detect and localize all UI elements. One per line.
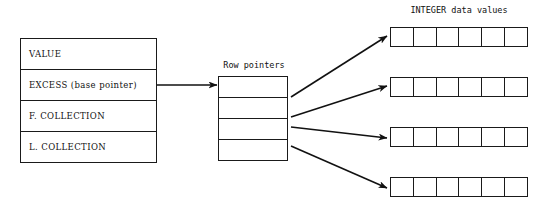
descriptor-label-value: VALUE: [29, 49, 61, 59]
integer-data-cell: [391, 78, 414, 96]
integer-data-cell: [437, 78, 460, 96]
integer-data-cell: [482, 28, 505, 46]
row-pointer-arrow-1: [291, 86, 387, 117]
descriptor-row-first-collection: F. COLLECTION: [21, 101, 156, 132]
row-pointer-cell: [219, 119, 287, 140]
integer-data-cell: [482, 78, 505, 96]
row-pointer-cell: [219, 77, 287, 98]
row-pointer-arrow-0: [291, 36, 387, 97]
descriptor-row-excess: EXCESS (base pointer): [21, 70, 156, 101]
integer-data-row: [390, 77, 528, 97]
array-descriptor-block: VALUE EXCESS (base pointer) F. COLLECTIO…: [20, 38, 157, 163]
row-pointer-cell: [219, 98, 287, 119]
integer-data-cell: [459, 78, 482, 96]
integer-data-cell: [391, 178, 414, 196]
array-storage-diagram: VALUE EXCESS (base pointer) F. COLLECTIO…: [0, 0, 536, 216]
descriptor-row-value: VALUE: [21, 39, 156, 70]
row-pointers-caption: Row pointers: [218, 60, 290, 70]
row-pointer-arrow-2: [291, 127, 387, 138]
integer-data-cell: [505, 178, 527, 196]
integer-data-cell: [505, 128, 527, 146]
descriptor-label-excess: EXCESS (base pointer): [29, 80, 137, 90]
integer-data-cell: [414, 78, 437, 96]
row-pointer-cell: [219, 140, 287, 160]
integer-data-cell: [482, 178, 505, 196]
integer-data-cell: [391, 128, 414, 146]
integer-data-cell: [459, 178, 482, 196]
integer-data-cell: [437, 178, 460, 196]
integer-data-row: [390, 27, 528, 47]
descriptor-label-last-collection: L. COLLECTION: [29, 142, 106, 152]
integer-data-cell: [437, 128, 460, 146]
integer-data-cell: [505, 28, 527, 46]
integer-data-row: [390, 127, 528, 147]
descriptor-label-first-collection: F. COLLECTION: [29, 111, 105, 121]
integer-data-cell: [414, 128, 437, 146]
integer-data-cell: [482, 128, 505, 146]
integer-data-values-caption: INTEGER data values: [390, 5, 528, 15]
descriptor-row-last-collection: L. COLLECTION: [21, 132, 156, 162]
integer-data-row: [390, 177, 528, 197]
integer-data-cell: [437, 28, 460, 46]
integer-data-cell: [459, 28, 482, 46]
integer-data-cell: [459, 128, 482, 146]
row-pointers-block: [218, 76, 288, 161]
row-pointer-arrow-3: [291, 146, 387, 188]
integer-data-cell: [414, 178, 437, 196]
integer-data-cell: [391, 28, 414, 46]
integer-data-cell: [414, 28, 437, 46]
integer-data-cell: [505, 78, 527, 96]
